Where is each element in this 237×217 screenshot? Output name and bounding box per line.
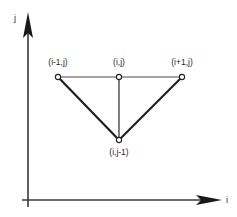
node-label-right: (i+1,j) [171,58,193,67]
y-axis-label: j [14,14,16,23]
edge-right-bottom [119,77,182,140]
node-label-left: (i-1,j) [48,58,67,67]
node-label-center: (i,j) [113,58,125,67]
stencil-edges-group [58,77,182,140]
x-axis-label: i [226,196,228,205]
node-marker-center [116,74,121,79]
stencil-diagram-svg [0,0,237,217]
axes-group [22,12,222,207]
node-marker-bottom [116,137,121,142]
node-label-bottom: (i,j-1) [109,148,128,157]
node-marker-right [179,74,184,79]
stencil-nodes-group [55,74,184,142]
edge-left-bottom [58,77,119,140]
diagram-canvas: j i (i-1,j) (i,j) (i+1,j) (i,j-1) [0,0,237,217]
node-marker-left [55,74,60,79]
